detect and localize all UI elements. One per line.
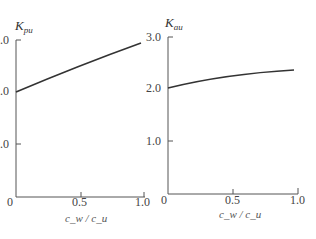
y-axis-label-kpu: Kpu (14, 18, 33, 35)
curve-kpu (16, 43, 141, 92)
chart-k-pu: Kpu .0 .0 .0 0 0.5 1.0 c_w / c_u (0, 18, 150, 224)
y-axis-label-kau: Kau (164, 15, 183, 32)
y-tick-label-2: .0 (0, 84, 9, 98)
x-tick-label-1.0: 1.0 (135, 195, 150, 209)
y-tick-label-1: 1.0 (146, 134, 161, 148)
y-tick-label-3: .0 (0, 33, 9, 47)
x-tick-label-1.0: 1.0 (290, 193, 305, 207)
y-tick-label-2: 2.0 (146, 81, 161, 95)
y-tick-label-3: 3.0 (146, 30, 161, 44)
charts-canvas: Kpu .0 .0 .0 0 0.5 1.0 c_w / c_u Kau 3.0… (0, 0, 316, 239)
x-tick-label-0: 0 (161, 193, 167, 207)
x-axis-label: c_w / c_u (65, 212, 108, 224)
x-tick-label-0.5: 0.5 (225, 193, 240, 207)
x-axis-label: c_w / c_u (219, 208, 262, 220)
curve-kau (168, 70, 294, 88)
x-tick-label-0: 0 (7, 195, 13, 209)
x-tick-label-0.5: 0.5 (72, 195, 87, 209)
y-tick-label-1: .0 (0, 137, 9, 151)
chart-k-au: Kau 3.0 2.0 1.0 0 0.5 1.0 c_w / c_u (146, 15, 305, 220)
